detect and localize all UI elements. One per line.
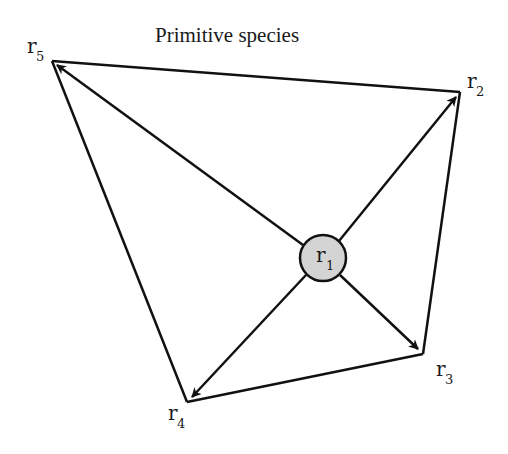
node-r1-subscript: 1 <box>326 258 334 273</box>
diagram-title: Primitive species <box>155 23 299 47</box>
node-r1: r 1 <box>300 235 346 281</box>
node-r2-subscript: 2 <box>476 84 484 99</box>
arrow-r1-r2 <box>339 97 456 241</box>
arrow-r1-r5 <box>57 65 303 245</box>
node-r3-label-group: r 3 <box>436 357 453 387</box>
edge-r5-r2 <box>52 61 460 92</box>
arrow-r1-r4 <box>192 275 306 397</box>
reaction-arrows <box>57 65 456 397</box>
node-r4-subscript: 4 <box>177 416 185 431</box>
node-r5-subscript: 5 <box>36 49 44 64</box>
arrow-r1-r3 <box>340 275 418 349</box>
node-r1-label: r <box>316 243 326 267</box>
node-r5-label-group: r 5 <box>27 34 44 64</box>
edge-r3-r4 <box>187 354 423 402</box>
polygon-edges <box>52 61 460 402</box>
node-r4-label-group: r 4 <box>168 401 185 431</box>
node-r3-subscript: 3 <box>445 372 453 387</box>
species-diagram: Primitive species r 1 r 2 r 3 r 4 r 5 <box>0 0 508 454</box>
node-r2-label-group: r 2 <box>467 69 484 99</box>
